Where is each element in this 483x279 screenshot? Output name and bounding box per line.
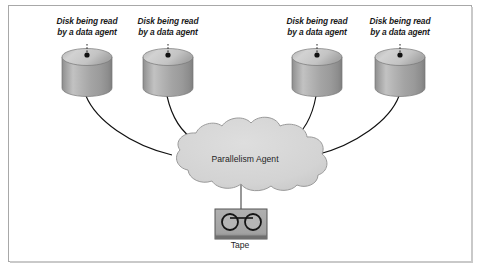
disk-4-label: Disk being read by a data agent xyxy=(357,16,443,37)
disk-3-marker xyxy=(314,52,319,57)
diagram-figure: Disk being read by a data agent Disk bei… xyxy=(0,0,483,279)
tape-reel-right xyxy=(245,214,261,230)
diagram-canvas xyxy=(0,0,483,279)
disk-1-label: Disk being read by a data agent xyxy=(44,16,130,37)
disk-2-marker xyxy=(165,52,170,57)
tape-label: Tape xyxy=(200,240,280,250)
connector-disk-4 xyxy=(316,96,399,155)
tape-reel-left xyxy=(222,214,238,230)
tape-device[interactable] xyxy=(215,209,267,239)
cloud-label: Parallelism Agent xyxy=(165,154,325,164)
disk-1-marker xyxy=(84,52,89,57)
disk-3-shape[interactable] xyxy=(292,44,342,97)
connector-disk-1 xyxy=(86,96,172,155)
disk-4-marker xyxy=(397,52,402,57)
disk-4-shape[interactable] xyxy=(375,44,425,97)
disk-cylinders xyxy=(62,44,425,97)
disk-2-label: Disk being read by a data agent xyxy=(125,16,211,37)
disk-2-shape[interactable] xyxy=(143,44,193,97)
disk-1-shape[interactable] xyxy=(62,44,112,97)
disk-3-label: Disk being read by a data agent xyxy=(274,16,360,37)
